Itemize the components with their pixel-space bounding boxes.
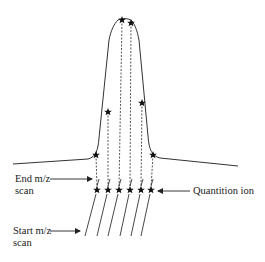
star-icon xyxy=(126,186,134,193)
star-icon xyxy=(149,151,157,158)
peak-curve xyxy=(13,19,238,166)
start-scan-label: Start m/z scan xyxy=(13,225,51,249)
star-icon xyxy=(137,186,145,193)
end-scan-label-line2: scan xyxy=(15,185,50,197)
star-icon xyxy=(92,151,100,158)
end-scan-label: End m/z scan xyxy=(15,173,50,197)
star-icon xyxy=(115,186,123,193)
scan-end-ticks xyxy=(97,179,153,186)
end-scan-label-line1: End m/z xyxy=(15,173,50,185)
dashed-drop-lines xyxy=(96,20,153,188)
star-icon xyxy=(104,108,112,115)
quantitation-stars xyxy=(93,186,155,193)
star-icon xyxy=(104,186,112,193)
start-scan-label-line2: scan xyxy=(13,237,51,249)
start-scan-label-line1: Start m/z xyxy=(13,225,51,237)
peak-sample-stars xyxy=(92,16,157,158)
star-icon xyxy=(118,16,126,23)
star-icon xyxy=(127,19,135,26)
scan-lines xyxy=(85,194,150,236)
quant-ion-label-text: Quantition ion xyxy=(193,185,254,196)
star-icon xyxy=(147,186,155,193)
quant-ion-label: Quantition ion xyxy=(193,185,254,197)
star-icon xyxy=(93,186,101,193)
chromatographic-peak-diagram xyxy=(0,0,265,262)
